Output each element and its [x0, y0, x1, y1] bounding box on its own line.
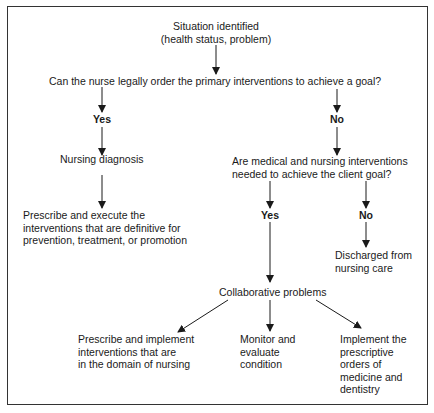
question2-line2: needed to achieve the client goal?: [232, 168, 408, 181]
discharged-line2: nursing care: [335, 262, 412, 275]
prescribe-implement-line3: in the domain of nursing: [78, 358, 194, 371]
situation-line2: (health status, problem): [116, 33, 316, 46]
implement-orders-line4: medicine and: [340, 371, 407, 384]
prescribe-execute-node: Prescribe and execute the interventions …: [23, 209, 187, 247]
implement-orders-line1: Implement the: [340, 333, 407, 346]
no2-label: No: [346, 209, 386, 222]
discharged-line1: Discharged from: [335, 249, 412, 262]
no1-label: No: [317, 113, 357, 126]
monitor-node: Monitor and evaluate condition: [240, 333, 295, 371]
monitor-line3: condition: [240, 358, 295, 371]
yes1-label: Yes: [82, 113, 122, 126]
question2-node: Are medical and nursing interventions ne…: [232, 155, 408, 180]
prescribe-implement-line1: Prescribe and implement: [78, 333, 194, 346]
implement-orders-line3: orders of: [340, 358, 407, 371]
yes2-label: Yes: [250, 209, 290, 222]
discharged-node: Discharged from nursing care: [335, 249, 412, 274]
situation-line1: Situation identified: [116, 20, 316, 33]
implement-orders-line2: prescriptive: [340, 346, 407, 359]
implement-orders-line5: dentistry: [340, 383, 407, 396]
monitor-line2: evaluate: [240, 346, 295, 359]
question2-line1: Are medical and nursing interventions: [232, 155, 408, 168]
prescribe-execute-line1: Prescribe and execute the: [23, 209, 187, 222]
nursing-diagnosis-node: Nursing diagnosis: [60, 153, 143, 166]
monitor-line1: Monitor and: [240, 333, 295, 346]
question1-node: Can the nurse legally order the primary …: [49, 75, 381, 88]
situation-node: Situation identified (health status, pro…: [116, 20, 316, 45]
prescribe-execute-line2: interventions that are definitive for: [23, 222, 187, 235]
collaborative-node: Collaborative problems: [219, 286, 326, 299]
prescribe-implement-line2: interventions that are: [78, 346, 194, 359]
prescribe-execute-line3: prevention, treatment, or promotion: [23, 234, 187, 247]
implement-orders-node: Implement the prescriptive orders of med…: [340, 333, 407, 396]
prescribe-implement-node: Prescribe and implement interventions th…: [78, 333, 194, 371]
